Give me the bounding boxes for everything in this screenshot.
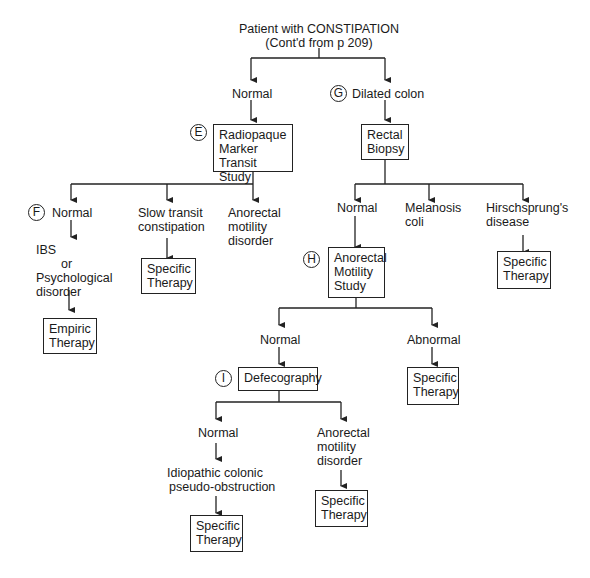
label-dilated-colon: Dilated colon: [352, 87, 424, 101]
marker-h: H: [303, 251, 320, 268]
label-h-normal: Normal: [260, 333, 300, 347]
anorectal-study-line-2: Motility: [334, 265, 379, 279]
specific-therapy-anorectal-line-2: Therapy: [321, 508, 362, 522]
specific-therapy-slow-line-1: Specific: [147, 262, 190, 276]
label-disorder: disorder: [36, 285, 81, 299]
anorectal-motility-study-box: Anorectal Motility Study: [328, 247, 385, 298]
flowchart: Patient with CONSTIPATION (Cont'd from p…: [0, 0, 590, 578]
defecography-box: Defecography: [238, 367, 318, 391]
label-anorectal-disorder-1c: disorder: [228, 234, 273, 248]
rectal-biopsy-line-1: Rectal: [367, 128, 403, 142]
rectal-biopsy-box: Rectal Biopsy: [361, 124, 409, 160]
anorectal-study-line-3: Study: [334, 279, 379, 293]
label-slow-transit-1: Slow transit: [138, 206, 203, 220]
label-anorectal-disorder-2a: Anorectal: [317, 426, 370, 440]
empiric-therapy-line-1: Empiric: [49, 322, 91, 336]
label-h-abnormal: Abnormal: [407, 333, 461, 347]
label-hirschsprung-1: Hirschsprung's: [486, 201, 568, 215]
label-ibs: IBS: [36, 243, 56, 257]
marker-f: F: [28, 204, 45, 221]
specific-therapy-hirsch-line-1: Specific: [503, 255, 545, 269]
specific-therapy-slow-line-2: Therapy: [147, 276, 190, 290]
label-idiopathic-2: pseudo-obstruction: [169, 480, 275, 494]
empiric-therapy-line-2: Therapy: [49, 336, 91, 350]
rectal-biopsy-line-2: Biopsy: [367, 142, 403, 156]
label-or: or: [61, 257, 72, 271]
label-psychological: Psychological: [36, 271, 112, 285]
label-slow-transit-2: constipation: [138, 220, 205, 234]
label-melanosis-2: coli: [405, 215, 424, 229]
label-hirschsprung-2: disease: [486, 215, 529, 229]
label-biopsy-normal: Normal: [337, 201, 377, 215]
connector-lines: [0, 0, 590, 578]
marker-i: I: [215, 370, 232, 387]
radiopaque-line-2: Marker: [219, 142, 287, 156]
title-line-2: (Cont'd from p 209): [219, 36, 419, 50]
specific-therapy-anorectal-box: Specific Therapy: [315, 490, 368, 527]
marker-g: G: [330, 85, 347, 102]
radiopaque-marker-box: Radiopaque Marker Transit Study: [213, 124, 293, 172]
label-anorectal-disorder-2c: disorder: [317, 454, 362, 468]
label-i-normal: Normal: [198, 426, 238, 440]
specific-therapy-idiopathic-box: Specific Therapy: [190, 515, 243, 552]
label-anorectal-disorder-1b: motility: [228, 220, 267, 234]
label-f-normal: Normal: [52, 206, 92, 220]
specific-therapy-anorectal-line-1: Specific: [321, 494, 362, 508]
label-melanosis-1: Melanosis: [405, 201, 461, 215]
label-anorectal-disorder-1a: Anorectal: [228, 206, 281, 220]
specific-therapy-hirsch-line-2: Therapy: [503, 269, 545, 283]
specific-therapy-abnormal-line-1: Specific: [413, 371, 453, 385]
title-line-1: Patient with CONSTIPATION: [219, 22, 419, 36]
label-anorectal-disorder-2b: motility: [317, 440, 356, 454]
empiric-therapy-box: Empiric Therapy: [43, 318, 97, 354]
radiopaque-line-1: Radiopaque: [219, 128, 287, 142]
specific-therapy-hirsch-box: Specific Therapy: [497, 251, 551, 289]
label-normal-top: Normal: [232, 87, 272, 101]
specific-therapy-idiopathic-line-2: Therapy: [196, 533, 237, 547]
marker-e: E: [190, 124, 207, 141]
defecography-label: Defecography: [244, 371, 312, 385]
specific-therapy-abnormal-box: Specific Therapy: [407, 367, 459, 405]
anorectal-study-line-1: Anorectal: [334, 251, 379, 265]
specific-therapy-abnormal-line-2: Therapy: [413, 385, 453, 399]
specific-therapy-idiopathic-line-1: Specific: [196, 519, 237, 533]
radiopaque-line-3: Transit Study: [219, 156, 287, 184]
specific-therapy-slow-box: Specific Therapy: [141, 258, 196, 294]
label-idiopathic-1: Idiopathic colonic: [167, 466, 263, 480]
